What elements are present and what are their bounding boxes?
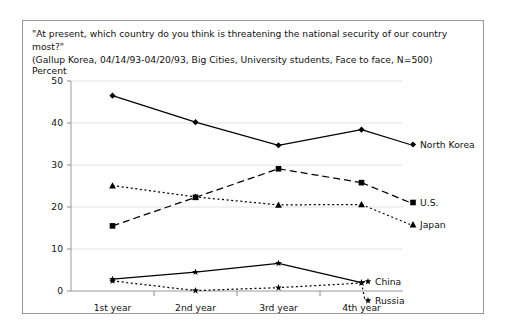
x-axis-tick-label: 3rd year bbox=[259, 302, 298, 313]
data-point-marker bbox=[365, 278, 372, 285]
data-point-marker bbox=[192, 119, 198, 125]
series-leader-line bbox=[362, 130, 411, 145]
data-point-marker bbox=[110, 223, 116, 229]
x-axis-tick-label: 2nd year bbox=[175, 302, 216, 313]
data-point-marker bbox=[358, 201, 365, 207]
series-line bbox=[113, 169, 362, 226]
data-point-marker bbox=[275, 260, 282, 267]
series-line bbox=[113, 281, 362, 291]
data-point-marker bbox=[275, 142, 281, 148]
data-point-marker bbox=[192, 287, 199, 294]
data-point-marker bbox=[276, 166, 282, 172]
data-point-marker bbox=[275, 202, 282, 208]
series-label-japan: Japan bbox=[419, 219, 446, 230]
series-label-u-s: U.S. bbox=[420, 197, 438, 208]
y-axis-tick-label: 50 bbox=[51, 75, 63, 86]
series-label-china: China bbox=[375, 276, 401, 287]
data-point-marker bbox=[192, 269, 199, 276]
series-line bbox=[113, 96, 362, 146]
data-point-marker bbox=[410, 141, 416, 147]
data-point-marker bbox=[275, 284, 282, 291]
x-axis-tick-label: 1st year bbox=[94, 302, 132, 313]
series-leader-line bbox=[362, 183, 411, 203]
y-axis-tick-label: 30 bbox=[51, 159, 63, 170]
data-point-marker bbox=[109, 93, 115, 99]
data-point-marker bbox=[358, 127, 364, 133]
chart-figure: "At present, which country do you think … bbox=[22, 20, 484, 314]
series-line bbox=[113, 186, 362, 205]
data-point-marker bbox=[109, 182, 116, 188]
data-point-marker bbox=[359, 180, 365, 186]
series-line bbox=[113, 263, 362, 282]
series-label-russia: Russia bbox=[375, 295, 405, 306]
y-axis-tick-label: 10 bbox=[51, 243, 63, 254]
data-point-marker bbox=[410, 221, 417, 227]
series-label-north-korea: North Korea bbox=[420, 139, 475, 150]
data-point-marker bbox=[410, 200, 416, 206]
plot-area: 010203040501st year2nd year3rd year4th y… bbox=[23, 21, 485, 315]
y-axis-tick-label: 40 bbox=[51, 117, 63, 128]
y-axis-tick-label: 20 bbox=[51, 201, 63, 212]
line-chart-svg: 010203040501st year2nd year3rd year4th y… bbox=[23, 21, 485, 315]
y-axis-tick-label: 0 bbox=[57, 285, 63, 296]
